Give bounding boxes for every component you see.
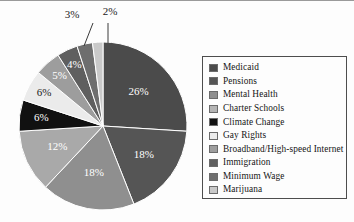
pie-chart-area: 26%18%18%12%6%6%5%4% 3% 2% (0, 1, 212, 222)
legend-swatch-icon (209, 77, 218, 85)
legend-item-label: Medicaid (223, 63, 259, 72)
legend-item[interactable]: Marijuana (209, 183, 341, 197)
legend-item[interactable]: Mental Health (209, 88, 341, 102)
pie-slice-label: 6% (37, 86, 52, 98)
callout-group-minimum-wage: 3% (65, 8, 93, 46)
legend-item[interactable]: Charter Schools (209, 102, 341, 116)
legend-item[interactable]: Immigration (209, 156, 341, 170)
legend-swatch-icon (209, 173, 218, 181)
pie-slice-label: 26% (128, 85, 148, 97)
legend-swatch-icon (209, 105, 218, 113)
chart-page: 26%18%18%12%6%6%5%4% 3% 2% MedicaidPensi… (0, 0, 354, 222)
legend-item-label: Climate Change (223, 118, 285, 127)
pie-chart-svg: 26%18%18%12%6%6%5%4% 3% 2% (0, 1, 212, 222)
legend-item[interactable]: Climate Change (209, 115, 341, 129)
legend-swatch-icon (209, 64, 218, 72)
pie-slice-label: 5% (52, 69, 67, 81)
chart-legend: MedicaidPensionsMental HealthCharter Sch… (202, 56, 347, 199)
callout-group-marijuana: 2% (103, 5, 118, 43)
legend-swatch-icon (209, 118, 218, 126)
legend-item-label: Mental Health (223, 90, 278, 99)
pie-slice-label: 18% (134, 148, 154, 160)
legend-swatch-icon (209, 186, 218, 194)
pie-slice-label: 18% (84, 166, 104, 178)
legend-item-label: Marijuana (223, 185, 262, 194)
legend-item-label: Pensions (223, 77, 257, 86)
legend-swatch-icon (209, 91, 218, 99)
pie-slices-group (19, 42, 187, 210)
callout-label-marijuana: 2% (103, 5, 118, 17)
legend-item-label: Broadband/High-speed Internet (223, 145, 343, 154)
legend-item-label: Charter Schools (223, 104, 284, 113)
legend-item[interactable]: Gay Rights (209, 129, 341, 143)
pie-slice-label: 12% (47, 140, 67, 152)
legend-item-label: Gay Rights (223, 131, 266, 140)
legend-swatch-icon (209, 159, 218, 167)
legend-item-label: Minimum Wage (223, 172, 284, 181)
legend-swatch-icon (209, 132, 218, 140)
legend-item[interactable]: Broadband/High-speed Internet (209, 143, 341, 157)
legend-swatch-icon (209, 145, 218, 153)
legend-item-label: Immigration (223, 158, 271, 167)
legend-item[interactable]: Pensions (209, 75, 341, 89)
pie-slice-label: 4% (67, 58, 82, 70)
legend-item[interactable]: Medicaid (209, 61, 341, 75)
legend-item[interactable]: Minimum Wage (209, 170, 341, 184)
pie-slice-label: 6% (34, 111, 49, 123)
callout-label-minimum-wage: 3% (65, 8, 80, 20)
